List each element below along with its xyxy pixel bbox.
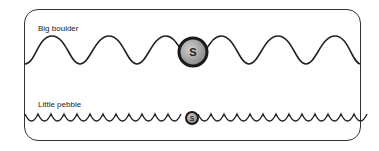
big-boulder-object: S [179,38,207,66]
svg-text:S: S [189,46,196,58]
little-pebble-object: S [186,112,198,124]
svg-text:S: S [190,115,195,122]
waves-svg: S S [0,0,379,151]
